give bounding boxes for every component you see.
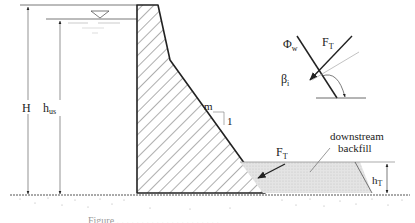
force-detail: FT Φw βi <box>281 35 366 98</box>
ground <box>10 195 410 210</box>
svg-text:Figure . . . . . . . . . . . .: Figure . . . . . . . . . . . . . . . . .… <box>88 215 219 223</box>
reservoir <box>20 5 137 33</box>
svg-text:βi: βi <box>281 72 290 88</box>
dimension-h-T: hT <box>372 164 387 193</box>
svg-text:hT: hT <box>372 174 383 188</box>
svg-text:Φw: Φw <box>283 37 298 53</box>
label-backfill-line1: downstream <box>330 130 384 142</box>
dimension-H: H <box>20 7 36 194</box>
svg-text:FT: FT <box>276 145 288 161</box>
water-level-triangle-icon <box>91 11 109 18</box>
svg-text:FT: FT <box>322 35 334 51</box>
dam-force-diagram: H hus m 1 downstream backfill FT hT <box>0 0 415 223</box>
label-backfill-line2: backfill <box>338 142 372 154</box>
dimension-h-us: hus <box>43 21 74 194</box>
label-slope-m: m <box>204 100 213 112</box>
label-H: H <box>22 101 31 115</box>
label-slope-1: 1 <box>227 115 233 127</box>
figure-caption: Figure . . . . . . . . . . . . . . . . .… <box>88 215 219 223</box>
label-phi-w: Φ <box>283 37 292 51</box>
